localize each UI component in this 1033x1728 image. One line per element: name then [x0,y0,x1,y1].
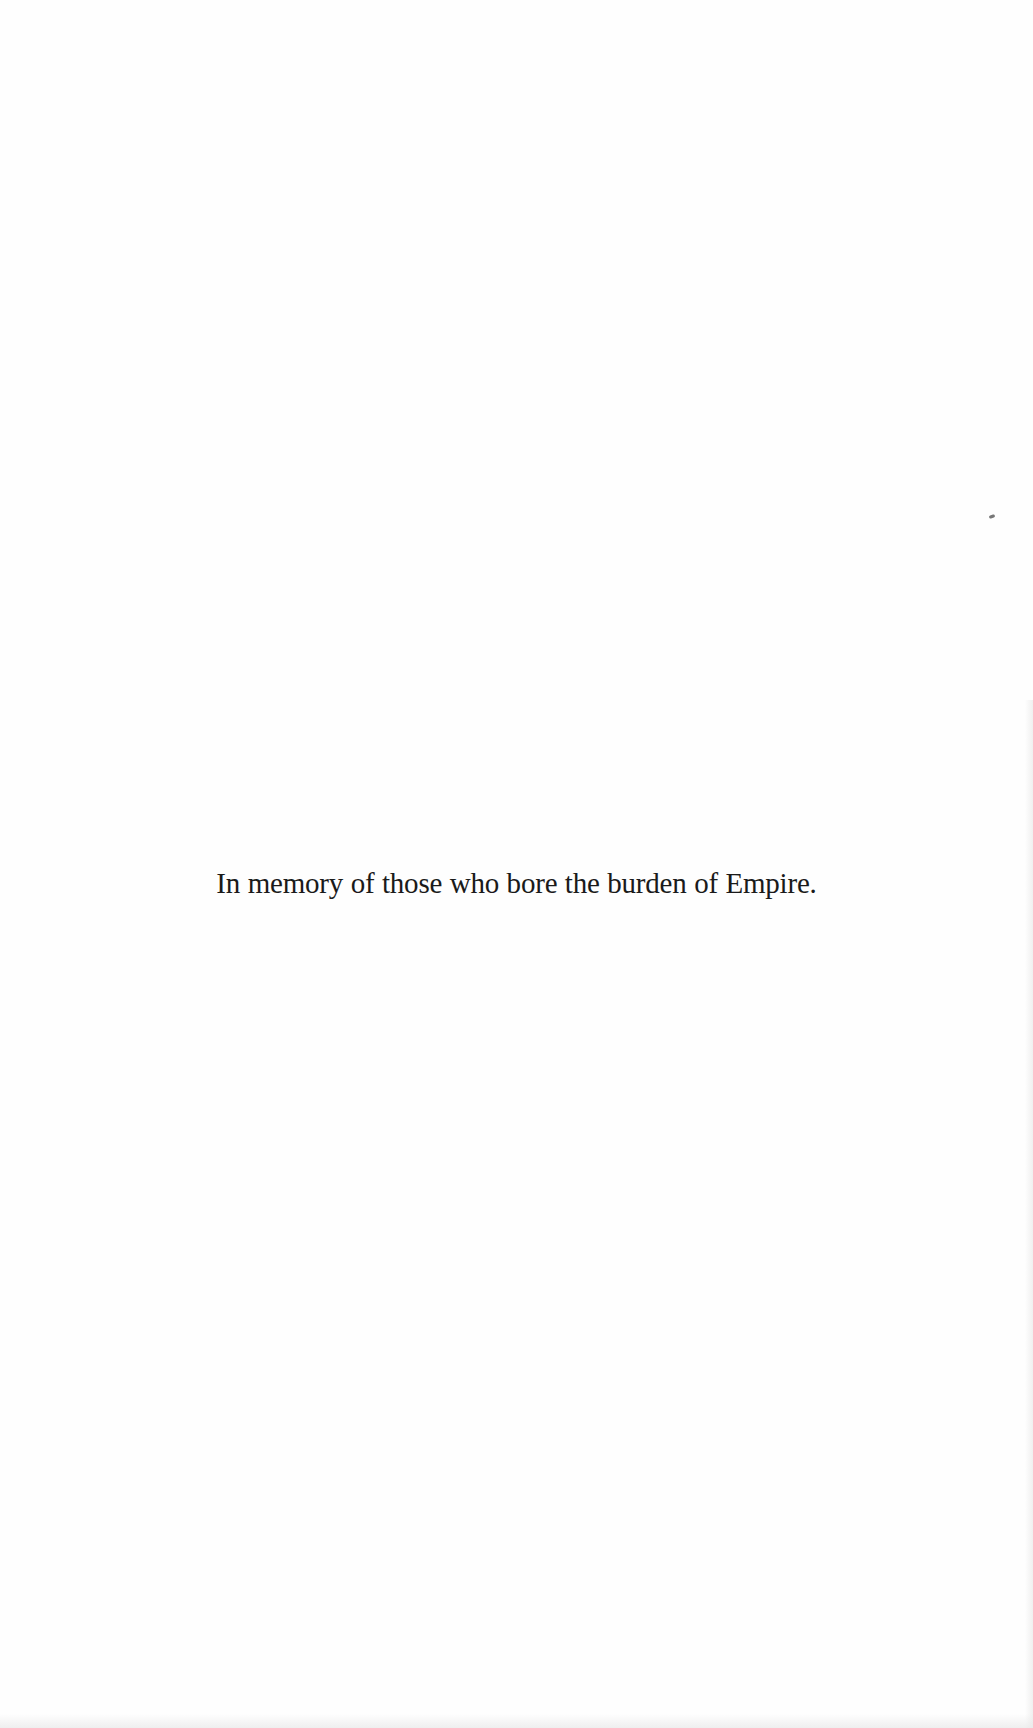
dedication-text: In memory of those who bore the burden o… [0,865,1033,901]
scan-speck [989,514,996,519]
scan-edge-right [1025,700,1033,1728]
book-page: In memory of those who bore the burden o… [0,0,1033,1728]
scan-edge-bottom [0,1714,1033,1728]
